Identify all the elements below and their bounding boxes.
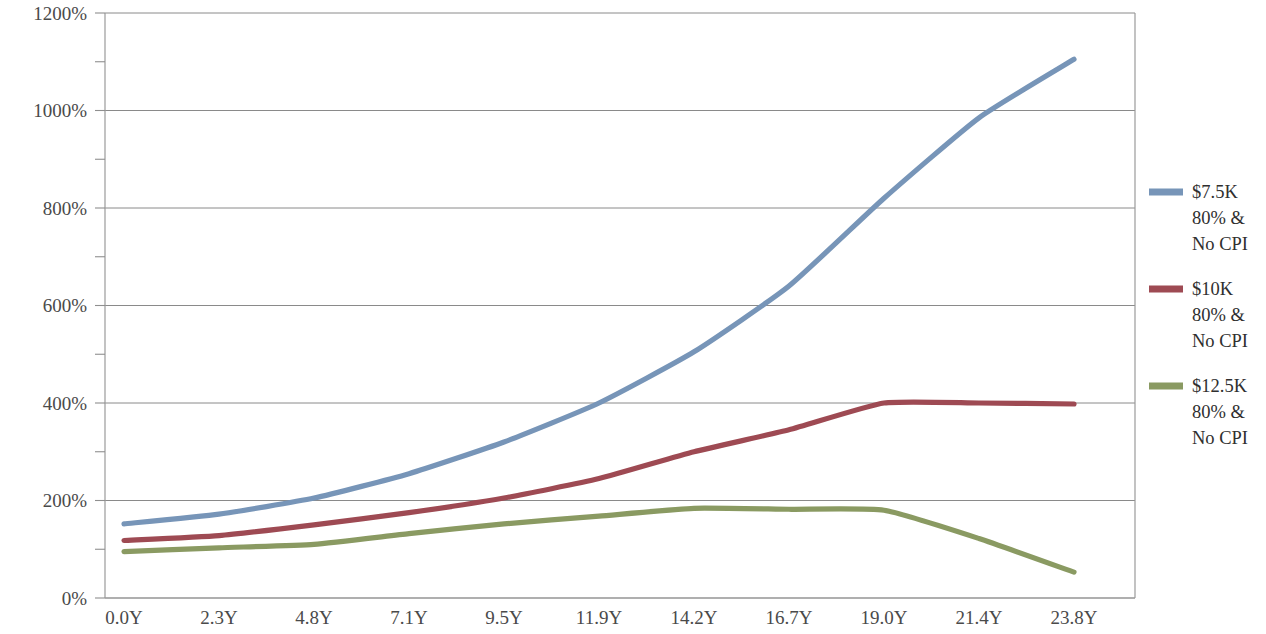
x-axis-tick-label: 9.5Y <box>485 607 523 628</box>
y-axis-tick-label: 1200% <box>33 3 87 24</box>
legend-label-2-line-2: 80% & <box>1192 305 1246 325</box>
legend-group: $7.5K80% &No CPI$10K80% &No CPI$12.5K80%… <box>1149 182 1248 448</box>
x-axis-tick-label: 4.8Y <box>295 607 333 628</box>
y-axis-tick-label: 1000% <box>33 100 87 121</box>
data-series-group <box>124 59 1074 572</box>
x-axis-tick-label: 11.9Y <box>576 607 623 628</box>
series-line-1 <box>124 59 1074 524</box>
x-axis-tick-label: 23.8Y <box>1051 607 1098 628</box>
x-axis-tick-label: 16.7Y <box>766 607 813 628</box>
legend-label-3-line-3: No CPI <box>1192 428 1248 448</box>
x-axis-tick-label: 2.3Y <box>200 607 238 628</box>
legend-label-3-line-1: $12.5K <box>1192 376 1248 396</box>
legend-label-3-line-2: 80% & <box>1192 402 1246 422</box>
y-axis-tick-label: 600% <box>43 295 88 316</box>
y-axis-tick-label: 0% <box>62 588 88 609</box>
legend-label-2-line-3: No CPI <box>1192 331 1248 351</box>
y-axis-tick-label: 800% <box>43 198 88 219</box>
y-tick-labels-group: 0%200%400%600%800%1000%1200% <box>33 3 87 609</box>
legend-label-1-line-2: 80% & <box>1192 208 1246 228</box>
x-axis-tick-label: 21.4Y <box>956 607 1003 628</box>
x-axis-tick-label: 19.0Y <box>861 607 908 628</box>
series-line-3 <box>124 508 1074 572</box>
legend-label-1-line-3: No CPI <box>1192 234 1248 254</box>
y-axis-tick-label: 400% <box>43 393 88 414</box>
y-axis-tick-label: 200% <box>43 490 88 511</box>
x-tick-labels-group: 0.0Y2.3Y4.8Y7.1Y9.5Y11.9Y14.2Y16.7Y19.0Y… <box>105 607 1098 628</box>
x-axis-tick-label: 7.1Y <box>390 607 428 628</box>
legend-label-2-line-1: $10K <box>1192 279 1234 299</box>
series-line-2 <box>124 402 1074 540</box>
x-axis-tick-label: 14.2Y <box>671 607 718 628</box>
chart-container: 0%200%400%600%800%1000%1200% 0.0Y2.3Y4.8… <box>0 0 1266 634</box>
legend-label-1-line-1: $7.5K <box>1192 182 1238 202</box>
line-chart: 0%200%400%600%800%1000%1200% 0.0Y2.3Y4.8… <box>0 0 1266 634</box>
x-axis-tick-label: 0.0Y <box>105 607 143 628</box>
